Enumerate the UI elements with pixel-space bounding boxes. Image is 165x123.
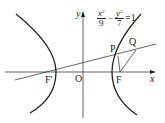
origin-label: O [75,74,82,84]
point-f-prime-label: F′ [45,75,53,85]
term1-exponent: 2 [102,9,105,14]
segment-fq [120,50,136,72]
hyperbola-figure: x2 9 − y2 7 =1 y x O F′ F P Q [0,0,165,123]
y-axis-label: y [76,9,80,19]
figure-canvas [0,0,165,123]
term2-denominator: 7 [117,19,122,28]
point-p-label: P [110,44,116,54]
equation-term1: x2 9 [97,9,106,28]
equation-rhs: =1 [125,13,136,23]
equation-term2: y2 7 [115,9,124,28]
equation-minus: − [108,14,113,23]
point-f-label: F [116,75,122,85]
line-fprime-p-q [15,44,156,80]
hyperbola-right-branch [112,14,141,115]
point-q-label: Q [129,37,136,47]
term1-denominator: 9 [99,19,104,28]
y-axis-arrow-icon [81,11,85,17]
segment-pf [118,56,120,72]
x-axis-label: x [150,74,154,84]
term2-exponent: 2 [120,9,123,14]
hyperbola-left-branch [16,14,56,113]
